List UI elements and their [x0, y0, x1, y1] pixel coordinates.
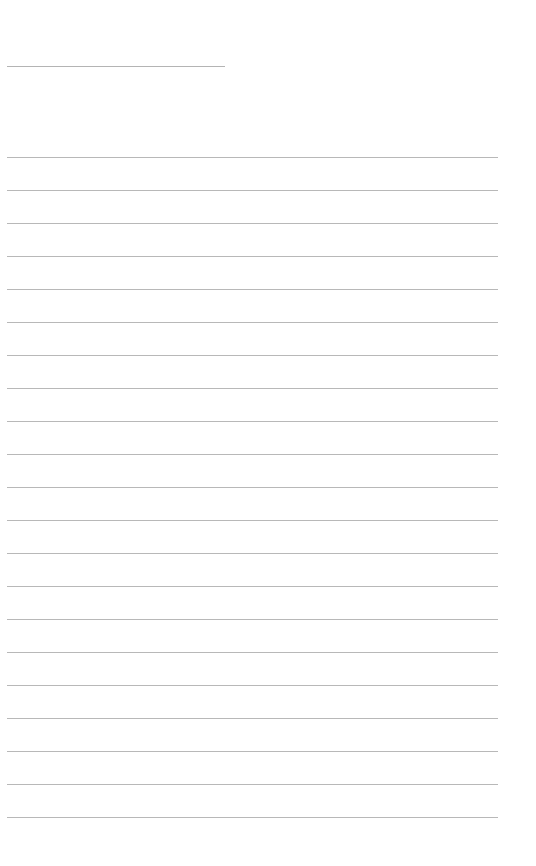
ruled-line	[7, 223, 498, 224]
ruled-line	[7, 520, 498, 521]
ruled-line	[7, 652, 498, 653]
ruled-line	[7, 553, 498, 554]
ruled-line	[7, 256, 498, 257]
ruled-line	[7, 421, 498, 422]
ruled-line	[7, 817, 498, 818]
ruled-line	[7, 454, 498, 455]
ruled-line	[7, 190, 498, 191]
ruled-line	[7, 157, 498, 158]
ruled-line	[7, 718, 498, 719]
ruled-line	[7, 289, 498, 290]
ruled-line	[7, 487, 498, 488]
ruled-line	[7, 784, 498, 785]
ruled-line	[7, 586, 498, 587]
ruled-line	[7, 355, 498, 356]
ruled-line	[7, 388, 498, 389]
ruled-line	[7, 322, 498, 323]
ruled-line	[7, 751, 498, 752]
lined-page	[0, 0, 536, 866]
title-line	[7, 66, 225, 67]
ruled-line	[7, 685, 498, 686]
ruled-line	[7, 619, 498, 620]
